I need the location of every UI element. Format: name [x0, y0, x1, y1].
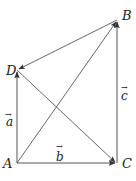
arrow-d-to-c [17, 70, 115, 162]
vector-b-overarrow: → [56, 142, 63, 151]
arrow-b-to-d [19, 20, 117, 69]
arrow-a-to-b [17, 22, 116, 163]
point-label-d: D [5, 63, 17, 78]
vector-diagram: A B C D a → b → c → [0, 0, 136, 181]
point-label-a: A [2, 156, 12, 171]
vector-label-b: b [56, 150, 64, 164]
vector-c-overarrow: → [121, 83, 128, 92]
point-label-c: C [122, 156, 132, 171]
vector-a-overarrow: → [5, 110, 12, 119]
point-label-b: B [121, 8, 132, 23]
